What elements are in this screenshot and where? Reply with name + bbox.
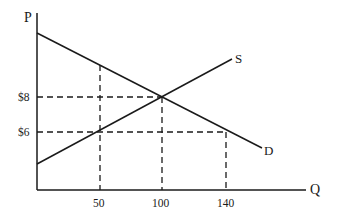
supply-curve [37, 59, 232, 164]
price-tick-8: $8 [18, 91, 30, 103]
demand-label: D [264, 143, 273, 158]
q-tick-140: 140 [217, 197, 235, 209]
demand-curve [37, 33, 262, 148]
q-tick-100: 100 [152, 197, 170, 209]
q-tick-50: 50 [93, 197, 105, 209]
y-axis-label: P [24, 10, 32, 25]
supply-label: S [235, 51, 242, 66]
supply-demand-chart: P Q S D $8 $6 50 100 140 [0, 0, 337, 218]
price-tick-6: $6 [18, 126, 30, 138]
x-axis-label: Q [310, 182, 320, 197]
